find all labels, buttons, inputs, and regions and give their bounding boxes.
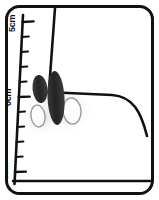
figure-root: 5cm 0cm 5cm [0,0,159,200]
scale-label-top: 5cm [7,15,17,32]
ruler-tick-major-5 [23,21,34,22]
anatomical-line-drawing: 5cm 0cm 5cm [0,0,159,200]
